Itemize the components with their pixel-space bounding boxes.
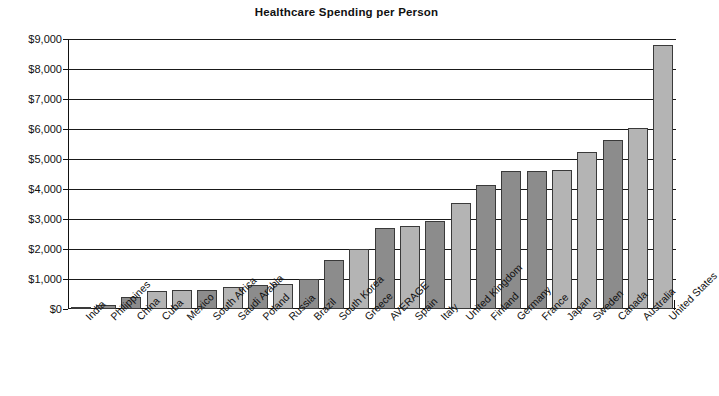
y-axis-tick-label: $9,000 [2,33,62,45]
bar[interactable] [552,170,572,310]
bar[interactable] [577,152,597,309]
bar[interactable] [197,290,217,309]
y-axis-tick-label: $3,000 [2,213,62,225]
y-axis-tick-label: $1,000 [2,273,62,285]
y-axis-tick-label: $5,000 [2,153,62,165]
y-axis-tick-mark [63,309,68,310]
axis-right-tick [674,300,675,310]
bar[interactable] [147,291,167,309]
bar[interactable] [653,45,673,309]
y-axis-tick-label: $0 [2,303,62,315]
chart-title: Healthcare Spending per Person [0,6,693,18]
bar[interactable] [400,226,420,309]
bar[interactable] [299,279,319,309]
bar[interactable] [349,249,369,309]
y-axis-tick-label: $4,000 [2,183,62,195]
bar[interactable] [603,140,623,309]
y-axis-tick-label: $6,000 [2,123,62,135]
bar[interactable] [172,290,192,309]
bar[interactable] [273,284,293,310]
bar[interactable] [527,171,547,309]
y-axis-tick-label: $2,000 [2,243,62,255]
bar[interactable] [324,260,344,310]
bar[interactable] [375,228,395,309]
y-axis-tick-label: $8,000 [2,63,62,75]
bar[interactable] [476,185,496,310]
bar[interactable] [451,203,471,310]
bar[interactable] [96,305,116,310]
bar[interactable] [248,285,268,309]
y-axis-tick-label: $7,000 [2,93,62,105]
bar-series [68,39,676,309]
bar[interactable] [425,221,445,310]
bar[interactable] [121,297,141,309]
bar[interactable] [628,128,648,309]
bar[interactable] [501,171,521,309]
bar[interactable] [223,287,243,310]
bar[interactable] [71,307,91,309]
